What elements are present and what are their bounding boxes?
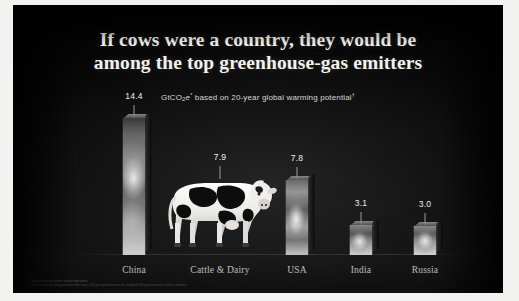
bar-photo-flag-russia (414, 226, 437, 255)
category-label-china: China (122, 265, 146, 275)
bar-china (123, 118, 146, 255)
bar-front-face-india (350, 225, 373, 255)
footnotes: *Metric tonnes of carbon dioxide equival… (30, 279, 187, 287)
bar-side-face-usa (309, 174, 315, 252)
bar-value-russia: 3.0 (419, 199, 431, 209)
plot-area: 14.4 China 7.9 (13, 5, 503, 293)
cow-photograph (160, 163, 280, 255)
footnote-line-2: †Difference in warming potential effect … (30, 283, 187, 287)
category-label-russia: Russia (412, 265, 439, 275)
bar-value-china: 14.4 (125, 91, 142, 101)
bar-side-face-russia (437, 220, 443, 252)
bar-usa (286, 180, 309, 255)
screenshot-root: If cows were a country, they would be am… (0, 0, 519, 301)
bar-value-usa: 7.8 (291, 153, 303, 163)
bar-india (350, 225, 373, 255)
category-label-cattle: Cattle & Dairy (190, 265, 249, 275)
bar-value-cattle: 7.9 (214, 152, 226, 162)
category-label-india: India (351, 265, 372, 275)
bar-value-india: 3.1 (355, 198, 367, 208)
bar-russia (414, 226, 437, 255)
chart-panel: If cows were a country, they would be am… (13, 5, 503, 293)
bar-photo-flag-india (350, 225, 373, 255)
bar-photo-skyscraper-china (123, 118, 146, 255)
category-label-usa: USA (287, 265, 307, 275)
bar-side-face-india (373, 219, 379, 252)
bar-photo-flag-usa (286, 180, 309, 255)
bar-front-face-usa (286, 180, 309, 255)
bar-front-face-china (123, 118, 146, 255)
bar-front-face-russia (414, 226, 437, 255)
bar-side-face-china (146, 112, 152, 252)
